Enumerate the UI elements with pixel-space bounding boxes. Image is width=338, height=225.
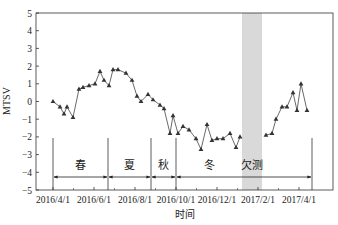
missing-label: 欠测 [241,158,263,171]
x-tick-label: 2017/2/1 [241,195,275,205]
triangle-marker [158,102,163,106]
triangle-marker [62,111,67,115]
triangle-marker [215,136,220,140]
triangle-marker [181,124,186,128]
y-tick-label: 0 [27,97,32,107]
triangle-marker [102,78,107,82]
triangle-marker [234,145,239,149]
triangle-marker [305,108,310,112]
season-annotations: 春夏秋冬欠测 [53,138,312,190]
y-tick-label: 1 [27,79,32,89]
triangle-marker [111,67,116,71]
season-label: 冬 [204,158,215,171]
series-line [53,70,240,150]
triangle-marker [238,134,243,138]
x-tick-label: 2016/6/1 [77,195,111,205]
y-axis: −5−4−3−2−1012345 [22,9,39,196]
y-tick-label: 2 [27,62,32,72]
triangle-marker [135,94,140,98]
triangle-marker [285,104,290,108]
season-label: 夏 [124,159,135,171]
triangle-marker [299,81,304,85]
x-axis-label: 时间 [175,208,195,220]
y-tick-label: −4 [22,168,32,178]
triangle-marker [199,147,204,151]
triangle-marker [291,90,296,94]
triangle-marker [270,131,275,135]
y-tick-label: −2 [22,132,32,142]
x-tick-label: 2017/4/1 [282,195,316,205]
triangle-marker [205,122,210,126]
triangle-marker [171,113,176,117]
triangle-marker [98,69,103,73]
triangle-marker [146,92,151,96]
triangle-marker [58,104,63,108]
triangle-marker [295,108,300,112]
triangle-marker [93,81,98,85]
y-axis-label: MTSV [1,86,12,115]
triangle-marker [187,127,192,131]
triangle-marker [274,117,279,121]
y-tick-label: −3 [22,150,32,160]
triangle-marker [228,131,233,135]
series-line [266,84,307,135]
y-tick-label: −5 [22,186,32,196]
triangle-marker [168,131,173,135]
season-label: 春 [75,159,86,171]
mtsv-series [51,67,310,151]
x-tick-label: 2016/10/1 [157,195,196,205]
y-tick-label: −1 [22,115,32,125]
triangle-marker [71,115,76,119]
triangle-marker [221,136,226,140]
triangle-marker [65,104,70,108]
triangle-marker [51,99,56,103]
y-tick-label: 5 [27,9,32,19]
season-label: 秋 [158,158,169,171]
y-tick-label: 4 [27,26,32,36]
triangle-marker [280,104,285,108]
x-tick-label: 2016/12/1 [198,195,237,205]
triangle-marker [116,67,121,71]
mtsv-line-chart: −5−4−3−2−1012345 2016/4/12016/6/12016/8/… [0,0,338,225]
x-tick-label: 2016/4/1 [36,195,70,205]
y-tick-label: 3 [27,44,32,54]
x-tick-label: 2016/8/1 [118,195,152,205]
